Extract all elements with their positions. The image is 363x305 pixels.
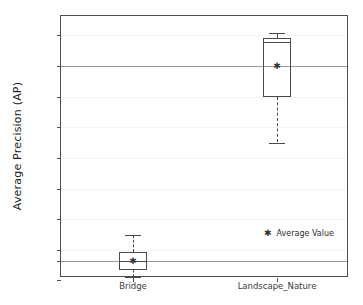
gridline-0.2 bbox=[61, 219, 347, 220]
xtick-label-bridge: Bridge bbox=[119, 281, 147, 291]
whisker-lower bbox=[277, 97, 278, 143]
gridline-0.6 bbox=[61, 97, 347, 98]
legend-label-average-value: Average Value bbox=[277, 229, 334, 238]
mean-marker-icon: ✱ bbox=[129, 256, 137, 265]
xtick-label-landscape-nature: Landscape_Nature bbox=[238, 281, 317, 291]
median-line bbox=[263, 42, 291, 43]
whisker-lower bbox=[133, 270, 134, 277]
legend: ✱ Average Value bbox=[264, 229, 334, 238]
gridline-0.4 bbox=[61, 158, 347, 159]
ytick-mark bbox=[57, 280, 61, 281]
whisker-cap-upper bbox=[125, 235, 141, 236]
ytick-mark bbox=[57, 127, 61, 128]
ytick-mark bbox=[57, 219, 61, 220]
gridline-0.1 bbox=[61, 250, 347, 251]
ytick-mark bbox=[57, 261, 61, 262]
boxplot-figure: 0.8 0.701 0.6 0.5 0.4 0.3 0.2 0.1 bbox=[0, 0, 363, 305]
ytick-mark bbox=[57, 158, 61, 159]
mean-marker-icon: ✱ bbox=[273, 61, 281, 70]
average-value-star-icon: ✱ bbox=[264, 229, 272, 238]
ytick-mark bbox=[57, 35, 61, 36]
whisker-cap-upper bbox=[269, 33, 285, 34]
plot-area: 0.8 0.701 0.6 0.5 0.4 0.3 0.2 0.1 bbox=[60, 15, 348, 277]
gridline-highlight-0.065 bbox=[61, 261, 347, 262]
whisker-upper bbox=[133, 235, 134, 253]
ytick-mark bbox=[57, 66, 61, 67]
gridline-0.8 bbox=[61, 35, 347, 36]
ytick-mark bbox=[57, 97, 61, 98]
y-axis-title: Average Precision (AP) bbox=[11, 82, 24, 210]
gridline-highlight-0.701 bbox=[61, 66, 347, 67]
whisker-cap-lower bbox=[269, 143, 285, 144]
ytick-mark bbox=[57, 189, 61, 190]
gridline-0.3 bbox=[61, 189, 347, 190]
gridline-0.5 bbox=[61, 127, 347, 128]
ytick-mark bbox=[57, 250, 61, 251]
